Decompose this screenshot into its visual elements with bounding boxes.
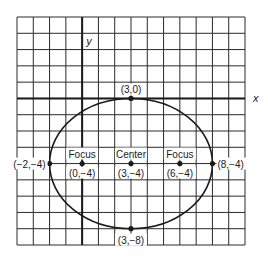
ellipse-diagram: (3,0)(3,−8)(−2,−4)(8,−4)Focus(0,−4)Cente… <box>0 0 268 268</box>
label-focus2-title: Focus <box>166 149 193 160</box>
label-focus1-coords: (0,−4) <box>69 168 95 179</box>
label-bottom: (3,−8) <box>118 235 144 246</box>
point-focus1 <box>80 161 85 166</box>
label-center-title: Center <box>116 149 147 160</box>
point-right <box>210 161 215 166</box>
label-focus1-title: Focus <box>69 149 96 160</box>
y-axis-label: y <box>85 35 93 47</box>
point-top <box>128 96 133 101</box>
label-focus2-coords: (6,−4) <box>167 168 193 179</box>
points: (3,0)(3,−8)(−2,−4)(8,−4)Focus(0,−4)Cente… <box>13 83 250 245</box>
label-right: (8,−4) <box>217 159 243 170</box>
x-axis-label: x <box>252 92 259 104</box>
point-focus2 <box>177 161 182 166</box>
label-center-coords: (3,−4) <box>118 168 144 179</box>
point-left <box>47 161 52 166</box>
grid-lines <box>17 17 245 245</box>
label-left: (−2,−4) <box>13 159 45 170</box>
label-top: (3,0) <box>121 84 142 95</box>
point-bottom <box>128 226 133 231</box>
point-center <box>128 161 133 166</box>
